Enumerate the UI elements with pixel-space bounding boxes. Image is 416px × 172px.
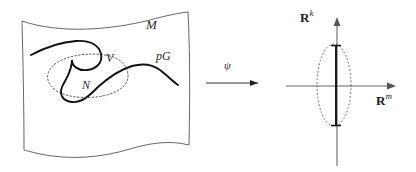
- image-ellipse: [317, 44, 351, 126]
- image-ellipse-path: [317, 44, 351, 126]
- map-arrow-head: [250, 80, 258, 86]
- horizontal-axis-arrowhead: [387, 83, 396, 90]
- label-map-psi: ψ: [224, 60, 231, 71]
- label-neighborhood-V: V: [106, 52, 113, 64]
- label-vertical-axis: Rk: [300, 9, 313, 25]
- figure-canvas: [0, 0, 416, 172]
- label-curve-pG: pG: [156, 50, 171, 62]
- manifold-sheet: [22, 12, 190, 157]
- label-horizontal-axis: Rm: [376, 92, 392, 108]
- horizontal-axis-base: R: [376, 93, 385, 108]
- figure-root: M V N pG ψ Rk Rm: [0, 0, 416, 172]
- label-submanifold-N: N: [82, 79, 90, 91]
- map-arrow: [206, 80, 258, 86]
- label-manifold-M: M: [146, 18, 157, 31]
- horizontal-axis-exponent: m: [385, 91, 392, 101]
- manifold-outline: [22, 12, 190, 157]
- vertical-axis-exponent: k: [309, 8, 313, 18]
- vertical-axis-arrowhead: [334, 17, 341, 26]
- vertical-axis-base: R: [300, 10, 309, 25]
